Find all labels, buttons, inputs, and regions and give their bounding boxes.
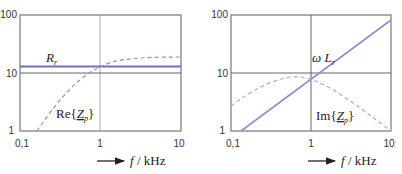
- right-xtick-1: 1: [308, 138, 314, 149]
- right-xlabel: f / kHz: [341, 153, 377, 168]
- right-xtick-0-1: 0,1: [226, 138, 240, 149]
- right-ytick-100: 100: [211, 9, 228, 20]
- left-plot: 100 10 1 0,1 1 10 Rr Re{Zp} f / kHz: [0, 9, 185, 168]
- chart-canvas: 100 10 1 0,1 1 10 Rr Re{Zp} f / kHz 100 …: [0, 0, 402, 174]
- left-label-rr: Rr: [45, 50, 58, 67]
- left-xtick-10b: 10: [173, 138, 185, 149]
- right-label-im-zp: Im{Zp}: [316, 108, 354, 125]
- left-ytick-100: 100: [0, 9, 17, 20]
- right-xtick-10: 10: [383, 138, 395, 149]
- left-ytick-10: 10: [6, 68, 18, 79]
- right-ytick-10: 10: [217, 68, 229, 79]
- left-xtick-0-1: 0,1: [15, 138, 29, 149]
- left-ytick-1: 1: [8, 125, 14, 136]
- right-label-wlr: ω Lr: [312, 50, 336, 67]
- left-label-re-zp: Re{Zp}: [56, 106, 94, 123]
- right-ytick-1: 1: [219, 125, 225, 136]
- left-xtick-1: 1: [97, 138, 103, 149]
- left-xlabel: f / kHz: [130, 153, 166, 168]
- right-plot: 100 10 1 0,1 1 10 ω Lr Im{Zp} f / kHz: [211, 9, 395, 168]
